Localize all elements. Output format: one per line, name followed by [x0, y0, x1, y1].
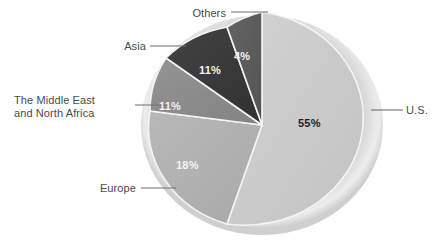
pie-value-others: 4%: [234, 50, 250, 62]
pie-label-mena-line-1: The Middle East: [14, 94, 95, 106]
pie-label-europe: Europe: [78, 182, 136, 195]
chart-canvas: Others Asia The Middle Eastand North Afr…: [0, 0, 446, 248]
pie-value-us: 55%: [298, 117, 321, 129]
pie-value-europe: 18%: [176, 159, 199, 171]
pie-value-middle-east-north-africa: 11%: [159, 100, 181, 112]
pie-label-middle-east-north-africa: The Middle Eastand North Africa: [14, 94, 130, 120]
pie-label-asia: Asia: [104, 40, 146, 53]
pie-label-mena-line-2: and North Africa: [14, 107, 94, 119]
pie-value-asia: 11%: [199, 64, 221, 76]
pie-label-us: U.S.: [406, 104, 446, 117]
pie-chart-graphic: [0, 0, 446, 248]
pie-label-others: Others: [170, 7, 226, 20]
